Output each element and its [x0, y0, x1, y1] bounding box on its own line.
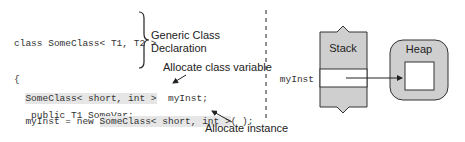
stack-label: Stack: [329, 42, 357, 54]
arrow-allocate-instance: [212, 111, 232, 122]
curly-brace: [139, 12, 149, 68]
diagram-graphics: Stack myInst Heap: [0, 0, 465, 142]
heap-label: Heap: [406, 43, 432, 55]
myinst-label: myInst: [280, 74, 314, 85]
heap-object: [405, 62, 434, 90]
arrow-allocate-variable: [173, 75, 186, 83]
